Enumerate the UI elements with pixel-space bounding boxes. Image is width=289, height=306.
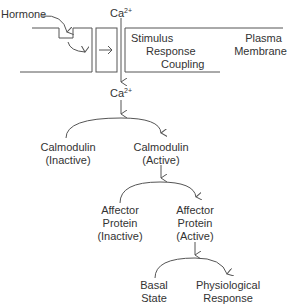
coupling-label: Coupling xyxy=(161,58,204,71)
hormone-label: Hormone xyxy=(1,8,46,21)
response-label: Response xyxy=(146,45,196,58)
calcium-mid-label: Ca2+ xyxy=(110,84,132,100)
physiological-response-label: PhysiologicalResponse xyxy=(193,279,263,305)
receptor-block xyxy=(20,28,92,72)
membrane-label: Membrane xyxy=(233,45,288,58)
stimulus-label: Stimulus xyxy=(131,32,173,45)
response-arc xyxy=(155,258,227,278)
affector-inactive-label: AffectorProtein(Inactive) xyxy=(92,204,148,243)
calmodulin-inactive-label: Calmodulin(Inactive) xyxy=(36,141,100,167)
signal-arrow-1 xyxy=(68,42,85,52)
affector-arc xyxy=(120,182,196,203)
basal-state-label: BasalState xyxy=(134,279,174,305)
calmodulin-active-label: Calmodulin(Active) xyxy=(129,141,193,167)
calmodulin-arc xyxy=(66,118,161,138)
plasma-label: Plasma xyxy=(236,32,289,45)
affector-active-label: AffectorProtein(Active) xyxy=(167,204,223,243)
calcium-top-label: Ca2+ xyxy=(110,4,132,20)
